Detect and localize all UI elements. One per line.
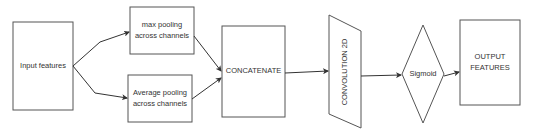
edge-conv-to-sigmoid (361, 75, 401, 76)
edge-input-to-avgpool (73, 66, 127, 98)
average-pooling-label: Average pooling across channels (131, 75, 189, 122)
output-features-label: OUTPUT FEATURES (470, 20, 510, 105)
edge-input-to-maxpool (73, 32, 129, 66)
max-pooling-label: max pooling across channels (133, 7, 191, 54)
sigmoid-label: Sigmoid (402, 64, 444, 84)
edge-avgpool-to-concat (192, 78, 221, 99)
edge-maxpool-to-concat (194, 36, 221, 71)
input-features-label: Input features (13, 22, 73, 110)
convolution-2d-label: CONVOLUTION 2D (340, 32, 350, 112)
concatenate-label: CONCATENATE (222, 26, 285, 117)
edge-sigmoid-to-output (444, 72, 459, 76)
edge-concat-to-conv (285, 71, 328, 73)
